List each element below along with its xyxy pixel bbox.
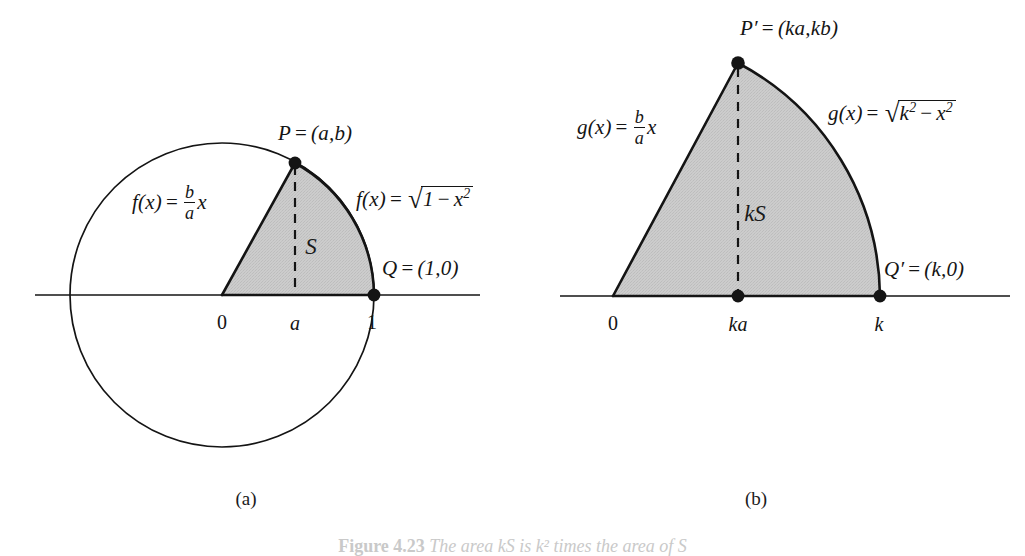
radicand-exponent: 2 [463, 186, 470, 201]
radicand-term: x [936, 101, 946, 125]
radicand-minus: − [434, 187, 454, 211]
fraction-b-over-a: ba [183, 183, 196, 222]
radicand-minus: − [916, 101, 936, 125]
tick-b-0: 0 [608, 313, 618, 333]
label-function-f-linear: f(x)=bax [132, 183, 207, 222]
tick-b-k: k [875, 314, 884, 334]
region-label-kS: kS [744, 202, 766, 225]
tick-a-a: a [290, 313, 300, 333]
label-point-Q-prime-equals: = [904, 257, 924, 281]
point-P [289, 157, 302, 170]
fraction-numerator: b [183, 183, 196, 202]
radical-body: k2−x2 [898, 100, 956, 124]
tick-b-ka: ka [729, 314, 748, 334]
subfigure-caption-a: (a) [235, 489, 256, 508]
fraction-denominator: a [183, 203, 196, 222]
region-S-fill [222, 163, 374, 295]
label-f-linear-equals: = [162, 190, 182, 214]
label-g-linear-equals: = [612, 115, 632, 139]
figure-caption-number: Figure 4.23 [338, 536, 425, 556]
figure-caption: Figure 4.23 The area kS is k² times the … [0, 537, 1025, 555]
label-f-circle-name: f(x) [356, 187, 386, 211]
label-point-P-prime-coords: (ka,kb) [778, 16, 838, 40]
radicand-exponent: 2 [946, 100, 953, 115]
label-point-Q: Q=(1,0) [382, 258, 459, 279]
figure-caption-text: The area kS is k² times the area of S [429, 536, 687, 556]
label-point-P-prime-symbol: P [740, 16, 753, 40]
point-ka [732, 290, 745, 303]
label-point-P-symbol: P [278, 121, 291, 145]
label-point-Q-prime-symbol: Q [884, 257, 899, 281]
label-f-linear-name: f(x) [132, 190, 162, 214]
label-g-linear-name: g(x) [577, 115, 612, 139]
label-g-linear-variable: x [647, 115, 657, 139]
radicand-constant: k [900, 101, 910, 125]
tick-a-0: 0 [217, 312, 227, 332]
label-point-Q-prime-coords: (k,0) [924, 257, 964, 281]
label-point-Q-symbol: Q [382, 256, 397, 280]
label-point-P-prime: P′=(ka,kb) [740, 18, 838, 39]
label-function-g-linear: g(x)=bax [577, 108, 656, 147]
label-point-Q-equals: = [397, 256, 417, 280]
label-f-linear-variable: x [197, 190, 207, 214]
fraction-b-over-a-b: ba [633, 108, 646, 147]
radical-body: 1−x2 [421, 186, 473, 210]
label-point-P: P=(a,b) [278, 123, 352, 144]
radicand-constant: 1 [423, 187, 434, 211]
label-point-Q-coords: (1,0) [417, 256, 458, 280]
point-Q [368, 289, 381, 302]
radical-k-squared-minus-x-squared: √k2−x2 [883, 100, 956, 127]
label-function-f-circle: f(x)=√1−x2 [356, 186, 473, 213]
label-point-P-equals: = [291, 121, 311, 145]
fraction-denominator: a [633, 128, 646, 147]
region-kS-fill [613, 63, 880, 296]
subfigure-caption-b: (b) [745, 489, 767, 508]
label-g-circle-name: g(x) [828, 101, 863, 125]
radical-1-minus-x-squared: √1−x2 [406, 186, 473, 213]
region-label-S: S [305, 235, 317, 258]
label-function-g-circle: g(x)=√k2−x2 [828, 100, 956, 127]
radicand-term: x [454, 187, 464, 211]
fraction-numerator: b [633, 108, 646, 127]
tick-a-1: 1 [367, 312, 377, 332]
point-Q-prime [874, 290, 887, 303]
label-point-Q-prime: Q′=(k,0) [884, 259, 964, 280]
point-P-prime [731, 56, 745, 70]
label-point-P-coords: (a,b) [311, 121, 352, 145]
label-f-circle-equals: = [386, 187, 406, 211]
label-g-circle-equals: = [863, 101, 883, 125]
label-point-P-prime-equals: = [758, 16, 778, 40]
